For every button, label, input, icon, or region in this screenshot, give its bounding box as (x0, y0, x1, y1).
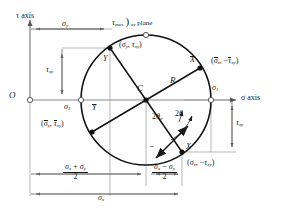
coord-label-Ybar: (σy, τxy) (41, 120, 64, 129)
dim-tau-xy-right-label: τxy (236, 119, 243, 128)
marker-point-Xbar (197, 65, 202, 70)
dim-tau-xy-left-label: τxy (46, 66, 53, 75)
dimension-arrows (31, 29, 232, 194)
point-label-Y: Y (103, 55, 107, 63)
point-label-X: X (186, 143, 191, 151)
axes (30, 20, 236, 100)
tau-axis-label: τ axis (16, 12, 34, 20)
sigma2-label: σ2 (64, 103, 70, 112)
marker-center-C (143, 97, 148, 102)
marker-point-X (179, 149, 184, 154)
coord-label-Xbar: (σx, −τxy) (211, 57, 238, 66)
dim-sigma-x-label: σx (98, 194, 104, 203)
dim-half-difference-label: σx − σy 2 (152, 163, 177, 181)
tau-max-label: τmax ) xy plane (112, 16, 152, 28)
marker-sigma1 (208, 97, 213, 102)
angle-2theta-label: 2θ (175, 110, 183, 118)
negative-sign-label: − (149, 142, 154, 151)
point-label-Xbar: X (190, 56, 195, 64)
marker-tau-max (143, 32, 148, 37)
point-label-Ybar: Y (92, 104, 96, 112)
origin-label: O (9, 91, 16, 100)
center-label: C (137, 84, 143, 93)
dim-average-stress-label: σx + σy 2 (63, 163, 88, 181)
coord-label-Y: (σy, τxy) (119, 41, 142, 50)
diagram-canvas (0, 0, 290, 212)
marker-point-Y (107, 45, 112, 50)
marker-point-Ybar (89, 129, 94, 134)
angle-2theta-p-label: 2θp (152, 113, 162, 122)
radius-label: R (170, 76, 176, 85)
sigma-axis-label: σ axis (241, 94, 260, 102)
marker-origin (27, 97, 32, 102)
dim-sigma-y-label: σy (62, 20, 68, 29)
sigma1-label: σ1 (212, 84, 218, 93)
coord-label-X: (σx, −τxy) (187, 159, 214, 168)
mohrs-circle-figure: τ axis σ axis O C R τmax ) xy plane Y (σ… (0, 0, 290, 212)
marker-sigma2 (78, 97, 83, 102)
positive-sign-label: + (180, 125, 185, 134)
